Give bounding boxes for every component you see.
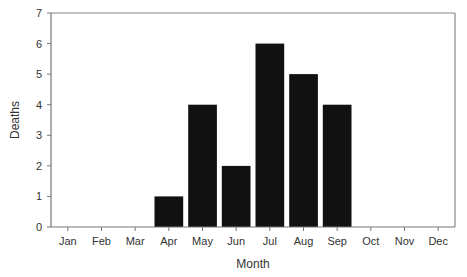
bar-aug (289, 74, 318, 227)
y-tick-label: 1 (36, 190, 42, 202)
x-tick-label-dec: Dec (428, 235, 448, 247)
bars-group (155, 44, 352, 227)
x-tick-label-jun: Jun (227, 235, 245, 247)
x-tick-label-mar: Mar (126, 235, 145, 247)
y-axis-ticks: 01234567 (36, 7, 51, 233)
x-tick-label-oct: Oct (362, 235, 379, 247)
plot-frame (51, 13, 455, 227)
y-tick-label: 2 (36, 160, 42, 172)
y-tick-label: 7 (36, 7, 42, 19)
bar-sep (323, 105, 352, 227)
y-tick-label: 3 (36, 129, 42, 141)
y-tick-label: 0 (36, 221, 42, 233)
x-tick-label-feb: Feb (92, 235, 111, 247)
x-tick-label-may: May (192, 235, 213, 247)
bar-apr (155, 196, 184, 227)
x-tick-label-nov: Nov (395, 235, 415, 247)
x-tick-label-jan: Jan (59, 235, 77, 247)
y-tick-label: 5 (36, 68, 42, 80)
x-axis-ticks: JanFebMarAprMayJunJulAugSepOctNovDec (59, 227, 448, 247)
x-tick-label-aug: Aug (294, 235, 314, 247)
bar-jul (256, 44, 285, 227)
x-axis-label: Month (236, 257, 269, 271)
bar-chart: 01234567 JanFebMarAprMayJunJulAugSepOctN… (0, 0, 467, 277)
y-tick-label: 4 (36, 99, 42, 111)
x-tick-label-sep: Sep (327, 235, 347, 247)
y-axis-label: Deaths (8, 101, 22, 139)
bar-may (188, 105, 217, 227)
y-tick-label: 6 (36, 38, 42, 50)
bar-jun (222, 166, 251, 227)
x-tick-label-jul: Jul (263, 235, 277, 247)
x-tick-label-apr: Apr (160, 235, 177, 247)
